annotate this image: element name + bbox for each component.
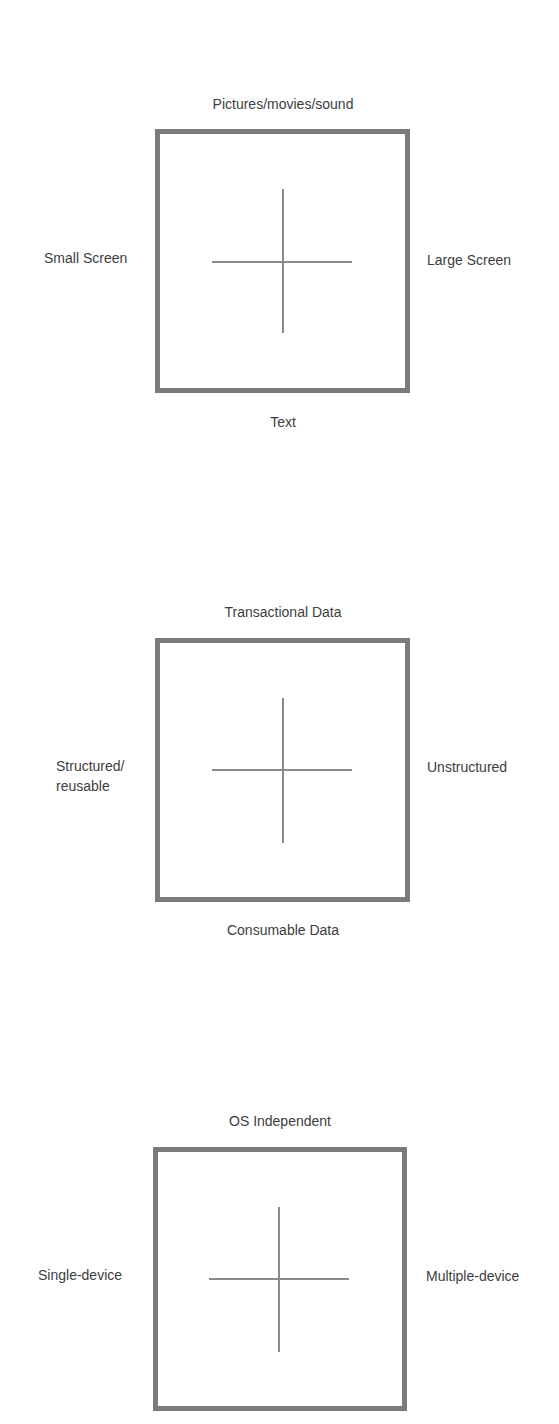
top-axis-label: OS Independent xyxy=(229,1111,331,1131)
horizontal-axis xyxy=(209,1278,349,1280)
right-axis-label: Multiple-device xyxy=(426,1266,519,1286)
left-axis-label: Single-device xyxy=(38,1265,122,1285)
quadrant-diagram-3: OS Independent Single-device Multiple-de… xyxy=(0,0,559,1424)
